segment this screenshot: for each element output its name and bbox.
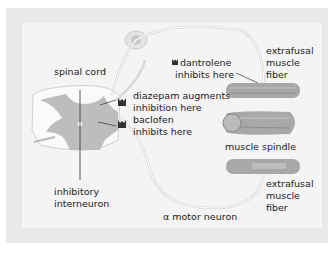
spinal-cord-section xyxy=(32,86,120,181)
label-diazepam-1: diazepam augments xyxy=(133,90,230,102)
label-muscle-spindle: muscle spindle xyxy=(225,141,296,153)
muscle-spindle xyxy=(223,111,295,134)
label-extrafusal-top-2: muscle xyxy=(266,57,300,69)
label-extrafusal-bottom-3: fiber xyxy=(266,202,288,214)
label-inhibitory-1: inhibitory xyxy=(54,186,99,198)
label-baclofen-1: baclofen xyxy=(133,114,174,126)
label-inhibitory-2: interneuron xyxy=(54,198,109,210)
dantrolene-icon xyxy=(172,59,178,65)
extrafusal-fiber-bottom xyxy=(226,159,300,174)
label-spinal-cord: spinal cord xyxy=(54,66,106,78)
label-extrafusal-bottom-2: muscle xyxy=(266,190,300,202)
label-extrafusal-top-3: fiber xyxy=(266,69,288,81)
label-dantrolene-2: inhibits here xyxy=(175,69,234,81)
label-dantrolene-1: dantrolene xyxy=(180,57,231,69)
label-baclofen-2: inhibits here xyxy=(133,126,192,138)
label-alpha-motor-neuron: α motor neuron xyxy=(163,211,237,223)
label-diazepam-2: inhibition here xyxy=(133,102,202,114)
label-extrafusal-top-1: extrafusal xyxy=(266,45,314,57)
extrafusal-fiber-top xyxy=(226,83,300,98)
label-extrafusal-bottom-1: extrafusal xyxy=(266,178,314,190)
